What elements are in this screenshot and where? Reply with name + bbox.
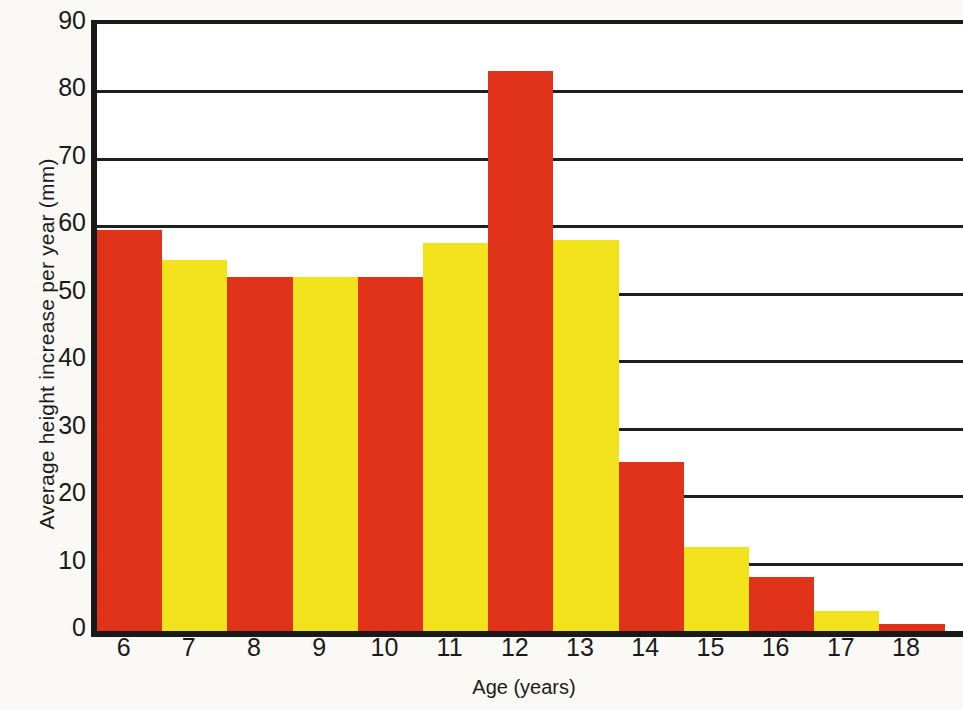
- bar-age-17: [814, 611, 879, 631]
- bar-age-14: [619, 462, 684, 631]
- x-tick-label: 11: [417, 634, 482, 662]
- x-axis-tick-labels: 6789101112131415161718: [91, 634, 957, 670]
- bar-age-9: [293, 277, 358, 631]
- bar-age-8: [227, 277, 292, 631]
- x-tick-label: 13: [547, 634, 612, 662]
- y-tick-label: 80: [30, 75, 86, 100]
- x-tick-label: 7: [156, 634, 221, 662]
- y-tick-label: 30: [30, 412, 86, 437]
- bar-age-11: [423, 243, 488, 631]
- y-tick-label: 90: [30, 8, 86, 33]
- bar-age-18: [879, 624, 944, 631]
- bars-layer: [97, 24, 963, 631]
- x-tick-label: 6: [91, 634, 156, 662]
- x-tick-label: 15: [678, 634, 743, 662]
- y-tick-label: 40: [30, 345, 86, 370]
- bar-age-12: [488, 71, 553, 631]
- bar-age-6: [97, 230, 162, 631]
- bar-age-16: [749, 577, 814, 631]
- x-tick-label: 9: [287, 634, 352, 662]
- y-tick-label: 10: [30, 547, 86, 572]
- x-tick-label: 12: [482, 634, 547, 662]
- x-tick-label: 17: [808, 634, 873, 662]
- plot-area: [91, 20, 963, 637]
- y-axis-tick-labels: 0102030405060708090: [30, 0, 86, 710]
- bar-age-15: [684, 547, 749, 631]
- x-tick-label: 8: [221, 634, 286, 662]
- x-tick-label: 14: [613, 634, 678, 662]
- y-tick-label: 0: [30, 615, 86, 640]
- bar-age-10: [358, 277, 423, 631]
- y-tick-label: 50: [30, 277, 86, 302]
- bar-age-7: [162, 260, 227, 631]
- y-tick-label: 20: [30, 480, 86, 505]
- x-tick-label: 16: [743, 634, 808, 662]
- y-tick-label: 70: [30, 142, 86, 167]
- x-tick-label: 18: [873, 634, 938, 662]
- x-tick-label: 10: [352, 634, 417, 662]
- bar-age-13: [553, 240, 618, 631]
- x-axis-title: Age (years): [91, 676, 957, 699]
- y-tick-label: 60: [30, 210, 86, 235]
